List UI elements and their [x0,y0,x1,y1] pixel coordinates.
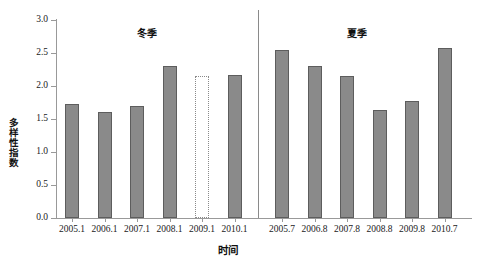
bar-2008.8 [373,110,387,218]
bar-2010.7 [438,48,452,218]
x-axis-line [56,218,472,219]
x-axis-tick [347,218,348,222]
bar-2009.1 [195,76,209,218]
y-axis-tick-label: 1.5 [18,114,48,124]
x-axis-tick-label: 2010.7 [425,224,465,235]
x-axis-tick [445,218,446,222]
y-axis-tick-label: 2.5 [18,48,48,58]
diversity-index-bar-chart: 0.00.51.01.52.02.53.0 2005.12006.12007.1… [0,0,478,265]
bar-2006.1 [98,112,112,218]
bar-2006.8 [308,66,322,218]
x-axis-tick [235,218,236,222]
y-axis-tick-label: 1.0 [18,147,48,157]
bar-2008.1 [163,66,177,218]
x-axis-tick [282,218,283,222]
x-axis-tick [137,218,138,222]
x-axis-title: 时间 [218,242,238,257]
bar-2007.1 [130,106,144,218]
bar-2009.8 [405,101,419,218]
x-axis-tick [105,218,106,222]
y-axis-title: 多样性指数 [6,118,20,168]
season-label-winter: 冬季 [137,28,157,39]
bar-2005.7 [275,50,289,218]
x-axis-tick [170,218,171,222]
y-axis-tick-label: 0.0 [18,213,48,223]
bar-2010.1 [228,75,242,218]
y-axis-tick [51,218,57,219]
y-axis-tick-label: 0.5 [18,180,48,190]
x-axis-tick [72,218,73,222]
x-axis-tick [202,218,203,222]
x-axis-tick [412,218,413,222]
y-axis-tick-label: 2.0 [18,81,48,91]
bar-2005.1 [65,104,79,218]
y-axis-tick-label: 3.0 [18,15,48,25]
x-axis-tick-label: 2010.1 [215,224,255,235]
x-axis-tick [315,218,316,222]
season-label-summer: 夏季 [347,28,367,39]
bar-group [57,20,472,218]
x-axis-tick [380,218,381,222]
bar-2007.8 [340,76,354,218]
